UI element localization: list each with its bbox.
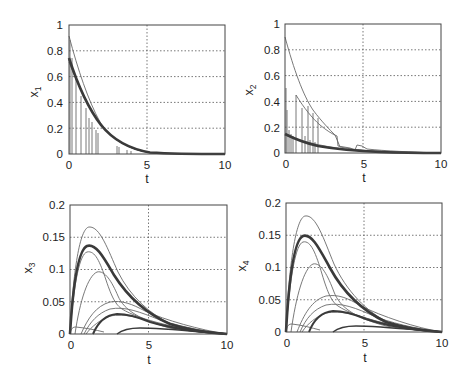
y-ticks: 0.2 0.15 0.1 0.05 0 [43,199,65,340]
x-ticks: 0 5 10 [284,337,449,349]
svg-text:0: 0 [284,337,290,349]
svg-text:x1: x1 [27,86,43,97]
y-axis-label: x4 [235,260,251,271]
x-axis-label: t [363,351,367,365]
panel-x1: 1 0.8 0.6 0.4 0.2 0 0 5 10 t x1 [27,19,231,186]
svg-text:5: 5 [144,159,150,171]
y-ticks: 1 0.8 0.6 0.4 0.2 0 [264,18,281,159]
x-axis-label: t [145,172,149,186]
svg-text:1: 1 [57,19,63,31]
svg-text:5: 5 [361,158,367,170]
svg-text:0.8: 0.8 [47,45,63,57]
svg-text:0: 0 [66,159,72,171]
y-ticks: 0.2 0.15 0.1 0.05 0 [259,197,281,338]
svg-text:0.1: 0.1 [49,263,65,275]
svg-text:5: 5 [362,337,368,349]
svg-text:0.2: 0.2 [264,122,280,134]
y-axis-label: x1 [27,86,43,97]
svg-text:0.6: 0.6 [47,71,63,83]
svg-text:5: 5 [146,339,152,351]
svg-text:0.8: 0.8 [264,44,280,56]
svg-text:0.1: 0.1 [265,261,281,273]
svg-text:0.4: 0.4 [264,96,281,108]
x-ticks: 0 5 10 [68,339,234,351]
svg-text:0.2: 0.2 [47,123,63,135]
figure-canvas: 1 0.8 0.6 0.4 0.2 0 0 5 10 t x1 [0,0,468,377]
y-axis-label: x3 [21,262,37,273]
x-ticks: 0 5 10 [283,158,448,170]
x-axis-label: t [147,353,151,367]
svg-text:10: 10 [435,158,448,170]
svg-text:0.4: 0.4 [47,97,64,109]
y-axis-label: x2 [242,84,258,95]
svg-text:10: 10 [219,159,232,171]
svg-text:0.15: 0.15 [43,231,65,243]
x-ticks: 0 5 10 [66,159,232,171]
panel-x3: 0.2 0.15 0.1 0.05 0 0 5 10 t x3 [21,199,233,367]
svg-text:0.05: 0.05 [259,294,281,306]
svg-text:0: 0 [275,326,281,338]
y-ticks: 1 0.8 0.6 0.4 0.2 0 [47,19,64,160]
svg-text:1: 1 [274,18,280,30]
svg-text:0: 0 [283,158,289,170]
panel-x4: 0.2 0.15 0.1 0.05 0 0 5 10 t x4 [235,197,448,365]
panel-x2: 1 0.8 0.6 0.4 0.2 0 0 5 10 t x2 [242,18,447,185]
svg-text:0.2: 0.2 [49,199,65,211]
svg-text:0.2: 0.2 [265,197,281,209]
svg-text:x2: x2 [242,84,258,95]
svg-text:10: 10 [436,337,449,349]
x-axis-label: t [362,171,366,185]
svg-text:10: 10 [221,339,234,351]
svg-text:0: 0 [59,328,65,340]
svg-text:0.6: 0.6 [264,70,280,82]
svg-text:0: 0 [57,148,63,160]
svg-text:0.05: 0.05 [43,296,65,308]
svg-text:x3: x3 [21,262,37,273]
svg-text:0: 0 [68,339,74,351]
svg-text:x4: x4 [235,260,251,271]
svg-text:0: 0 [274,147,280,159]
grid [70,205,227,334]
svg-text:0.15: 0.15 [259,229,281,241]
